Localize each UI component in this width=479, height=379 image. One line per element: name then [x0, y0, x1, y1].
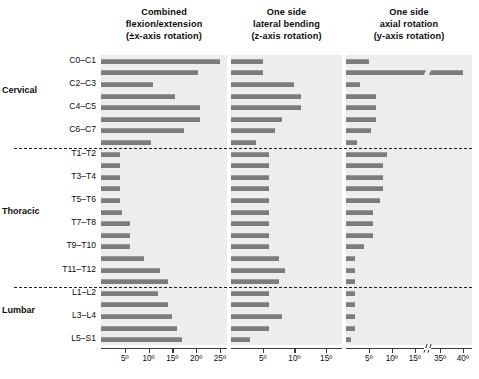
bar [231, 70, 263, 75]
bar [346, 256, 355, 261]
x-tick-label: 25º [214, 354, 226, 363]
bar [231, 186, 269, 191]
group-label-thoracic: Thoracic [2, 206, 40, 216]
panel-headers: Combined flexion/extension (±x-axis rota… [0, 6, 479, 54]
bar [101, 82, 153, 87]
bar [101, 140, 151, 145]
x-tick [263, 349, 264, 353]
bar [101, 128, 184, 133]
bar [231, 291, 269, 296]
bar [101, 244, 130, 249]
bar [101, 279, 168, 284]
bar [231, 337, 250, 342]
bar [346, 70, 463, 75]
x-tick-label: 10º [386, 354, 398, 363]
x-tick [125, 349, 126, 353]
bar [346, 140, 357, 145]
bar [346, 244, 364, 249]
bar [231, 117, 282, 122]
row-label-c0-c1: C0–C1 [69, 55, 96, 65]
bar [101, 105, 200, 110]
bar [101, 117, 200, 122]
x-tick [149, 349, 150, 353]
bar [231, 128, 275, 133]
bar [231, 256, 279, 261]
bar [231, 94, 301, 99]
x-tick-label: 40º [457, 354, 469, 363]
bar [231, 326, 269, 331]
x-tick [172, 349, 173, 353]
bar [101, 302, 168, 307]
row-label-t5-t6: T5–T6 [71, 194, 96, 204]
x-axis-p3 [346, 348, 472, 349]
bar [101, 210, 122, 215]
bar [346, 105, 376, 110]
bar [101, 291, 158, 296]
bar [231, 175, 269, 180]
x-tick-label: 5º [365, 354, 373, 363]
bar [101, 152, 120, 157]
bar [101, 221, 130, 226]
bar [101, 70, 198, 75]
panel-axial-rotation-plot [346, 55, 472, 345]
x-tick [196, 349, 197, 353]
x-tick-label: 10º [142, 354, 154, 363]
bar [231, 82, 294, 87]
panel-header-line1: One side [332, 6, 479, 18]
row-label-t9-t10: T9–T10 [66, 240, 96, 250]
x-tick [326, 349, 327, 353]
row-label-t3-t4: T3–T4 [71, 171, 96, 181]
x-tick [369, 349, 370, 353]
bar [346, 314, 355, 319]
x-tick-label: 20º [190, 354, 202, 363]
row-label-c6-c7: C6–C7 [69, 124, 96, 134]
bar [101, 198, 120, 203]
x-tick [294, 349, 295, 353]
bar [231, 279, 279, 284]
row-label-l5-s1: L5–S1 [71, 333, 96, 343]
x-tick-label: 15º [320, 354, 332, 363]
spine-range-of-motion-figure: Combined flexion/extension (±x-axis rota… [0, 0, 479, 379]
x-tick [220, 349, 221, 353]
bar [346, 291, 355, 296]
bar [346, 302, 355, 307]
thoracic-lumbar-divider [14, 287, 472, 288]
x-tick-label: 35º [434, 354, 446, 363]
bar [231, 152, 269, 157]
bar [231, 221, 269, 226]
bar [101, 326, 177, 331]
bar [231, 233, 269, 238]
row-label-gutter: C0–C1C2–C3C4–C5C6–C7T1–T2T3–T4T5–T6T7–T8… [0, 55, 101, 345]
bar [346, 221, 373, 226]
x-tick-label: 10º [288, 354, 300, 363]
bar [346, 175, 383, 180]
row-label-t1-t2: T1–T2 [71, 148, 96, 158]
bar [231, 59, 263, 64]
bar [346, 152, 387, 157]
bar [346, 210, 373, 215]
bar [346, 186, 383, 191]
x-tick [415, 349, 416, 353]
group-label-cervical: Cervical [2, 85, 37, 95]
panel-flexion-extension-plot [101, 55, 227, 345]
bar [101, 175, 120, 180]
row-label-c2-c3: C2–C3 [69, 78, 96, 88]
bar [231, 244, 269, 249]
row-label-l3-l4: L3–L4 [72, 310, 96, 320]
bar [231, 105, 301, 110]
bar [346, 82, 360, 87]
bar [346, 233, 373, 238]
bar [346, 326, 355, 331]
x-tick-label: 5º [259, 354, 267, 363]
x-tick-label: 15º [409, 354, 421, 363]
panel-header-axial-rotation: One side axial rotation (y-axis rotation… [332, 6, 479, 42]
bar [346, 198, 380, 203]
bar [231, 302, 269, 307]
bar [231, 163, 269, 168]
panel-header-line3: (y-axis rotation) [332, 30, 479, 42]
x-tick [463, 349, 464, 353]
bar [101, 233, 130, 238]
bar [231, 210, 269, 215]
bar [231, 268, 285, 273]
bar [231, 198, 269, 203]
